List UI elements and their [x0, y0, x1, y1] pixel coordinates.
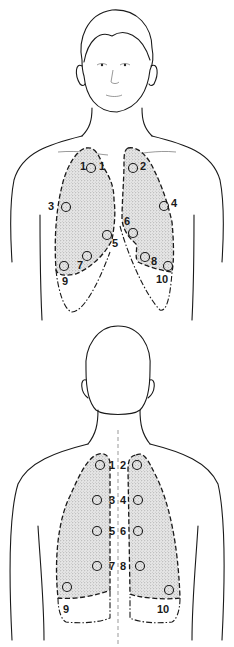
arm-inner-left	[40, 215, 42, 320]
right-lung-posterior	[128, 454, 180, 599]
nose	[111, 70, 119, 84]
auscultation-diagram: 1 1 2 3 4 5 6 7 8 9 10 1 2 3 4 5 6 7 8 9…	[0, 0, 234, 647]
point-label: 2	[140, 161, 146, 172]
point-label: 10	[157, 604, 169, 615]
arm-inner-right	[192, 215, 194, 320]
point-label: 3	[109, 495, 115, 506]
neck-back-left	[88, 410, 98, 444]
point-label: 4	[120, 495, 126, 506]
point-label: 5	[112, 238, 118, 249]
head-back-outline	[86, 326, 150, 415]
point-label: 7	[109, 561, 115, 572]
diagram-drawing	[0, 0, 234, 647]
point-label: 8	[151, 256, 157, 267]
point-label: 1	[109, 460, 115, 471]
posterior-figure	[10, 326, 224, 645]
point-label: 2	[120, 460, 126, 471]
point-label: 6	[120, 526, 126, 537]
arm-back-right	[192, 526, 198, 640]
arm-back-left	[38, 526, 44, 640]
point-label: 1	[99, 161, 105, 172]
point-label: 5	[109, 526, 115, 537]
point-label: 3	[48, 201, 54, 212]
neck-left	[82, 108, 92, 136]
mouth	[106, 95, 122, 97]
hair-outline	[84, 33, 150, 62]
point-label: 7	[77, 260, 83, 271]
point-label: 1	[80, 161, 86, 172]
point-label: 4	[171, 198, 177, 209]
anterior-figure	[11, 10, 224, 320]
left-lung-posterior	[57, 454, 111, 599]
point-label: 9	[62, 276, 68, 287]
neck-right	[142, 108, 152, 136]
point-label: 9	[63, 604, 69, 615]
neck-back-right	[140, 410, 150, 444]
point-label: 6	[124, 216, 130, 227]
head-outline	[81, 10, 153, 112]
point-label: 10	[156, 274, 168, 285]
point-label: 8	[120, 561, 126, 572]
